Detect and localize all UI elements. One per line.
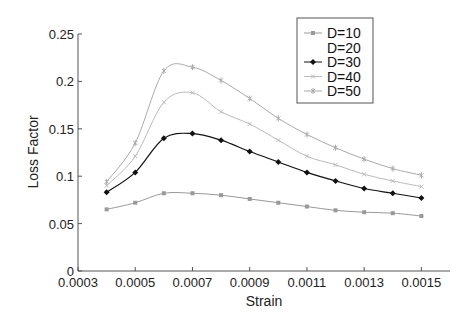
x-tick-label: 0.0005: [115, 275, 155, 290]
y-tick-label: 0.2: [56, 74, 74, 89]
series-d10-marker: [276, 201, 280, 205]
series-d40-line: [107, 92, 422, 187]
series-d10: [105, 191, 424, 218]
series-d10-line: [107, 192, 422, 216]
series-d30-marker: [390, 190, 396, 196]
series-d30-marker: [304, 169, 310, 175]
series-d30: [104, 131, 425, 201]
loss-factor-chart: 00.050.10.150.20.25 0.00030.00050.00070.…: [0, 0, 469, 328]
series-d30-marker: [333, 178, 339, 184]
series-d50-line: [107, 64, 422, 182]
series-d30-marker: [247, 149, 253, 155]
series-d10-marker: [219, 193, 223, 197]
series-d30-marker: [418, 195, 424, 201]
y-tick-label: 0.25: [49, 27, 74, 42]
series-d50-marker: [276, 115, 280, 121]
series-d40-marker: [248, 122, 252, 126]
x-tick-label: 0.0003: [58, 275, 98, 290]
series-d50-marker: [133, 140, 137, 146]
series-d10-marker: [133, 201, 137, 205]
legend: D=10D=20D=30D=40D=50: [297, 18, 373, 103]
series-d50-marker: [219, 77, 223, 83]
series-d10-marker: [105, 207, 109, 211]
series-d30-marker: [275, 159, 281, 165]
series-d30-marker: [189, 131, 195, 137]
series-d30-marker: [218, 137, 224, 143]
series-d10-marker: [190, 191, 194, 195]
series-d50-marker: [334, 145, 338, 151]
series-d50-marker: [248, 95, 252, 101]
x-axis-title: Strain: [246, 293, 283, 309]
series-d10-marker: [362, 210, 366, 214]
plot-area: [104, 64, 425, 218]
series-d10-marker: [248, 197, 252, 201]
legend-marker: [311, 31, 315, 35]
axes: 00.050.10.150.20.25 0.00030.00050.00070.…: [49, 27, 450, 290]
x-tick-label: 0.0013: [344, 275, 384, 290]
y-axis-title: Loss Factor: [25, 115, 41, 188]
series-d10-marker: [391, 211, 395, 215]
series-d30-line: [107, 133, 422, 198]
series-d40-marker: [219, 110, 223, 114]
y-tick-label: 0.1: [56, 169, 74, 184]
legend-label: D=50: [327, 83, 361, 99]
series-d50-marker: [305, 131, 309, 137]
series-d10-marker: [305, 205, 309, 209]
x-ticks: 0.00030.00050.00070.00090.00110.00130.00…: [58, 267, 441, 290]
y-tick-label: 0.05: [49, 217, 74, 232]
series-d40-marker: [276, 138, 280, 142]
y-ticks: 00.050.10.150.20.25: [49, 27, 82, 279]
series-d30-marker: [104, 189, 110, 195]
series-d50-marker: [162, 68, 166, 74]
series-d40-marker: [162, 100, 166, 104]
series-d50: [105, 64, 424, 185]
y-tick-label: 0.15: [49, 122, 74, 137]
series-d30-marker: [361, 186, 367, 192]
series-d10-marker: [162, 191, 166, 195]
x-tick-label: 0.0009: [230, 275, 270, 290]
series-d40-marker: [133, 154, 137, 158]
x-tick-label: 0.0007: [173, 275, 213, 290]
series-d10-marker: [334, 208, 338, 212]
x-tick-label: 0.0011: [288, 275, 327, 290]
x-tick-label: 0.0015: [402, 275, 442, 290]
series-d40: [105, 91, 424, 189]
series-d50-marker: [105, 179, 109, 185]
series-d10-marker: [419, 214, 423, 218]
series-d40-marker: [305, 154, 309, 158]
